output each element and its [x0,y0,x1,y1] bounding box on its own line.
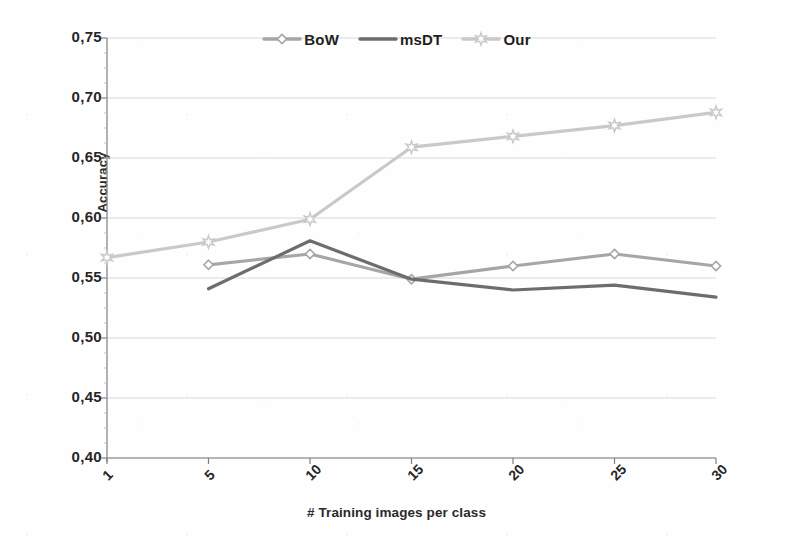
x-axis-tick-label: 20 [505,461,527,483]
x-axis-tick-label: 30 [708,461,730,483]
x-axis-tick-labels: 151015202530 [0,0,793,548]
x-axis-title: # Training images per class [0,505,793,520]
x-axis-tick-label: 10 [302,461,324,483]
x-axis-tick-label: 25 [607,461,629,483]
x-axis-tick-label: 15 [404,461,426,483]
accuracy-line-chart: Accuracy 0,750,700,650,600,550,500,450,4… [0,0,793,548]
x-axis-tick-label: 5 [201,466,218,483]
x-axis-tick-label: 1 [99,466,116,483]
